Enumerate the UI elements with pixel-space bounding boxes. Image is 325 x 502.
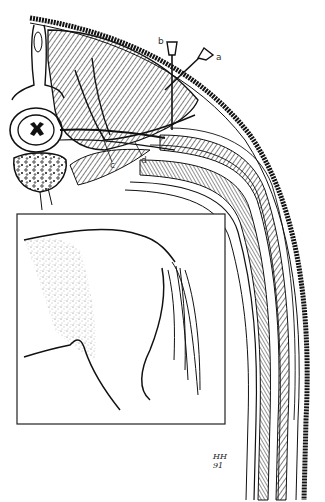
signature-initials: HH [213,452,227,461]
artist-signature: HH 91 [213,452,227,470]
anatomical-figure [0,0,325,502]
label-a: a [216,52,222,62]
label-c: c [110,160,115,170]
spinal-cord-grey-matter [30,122,44,136]
label-d: d [141,155,147,165]
label-b: b [158,36,164,46]
inset-panel [17,214,225,424]
signature-year: 91 [213,461,227,470]
